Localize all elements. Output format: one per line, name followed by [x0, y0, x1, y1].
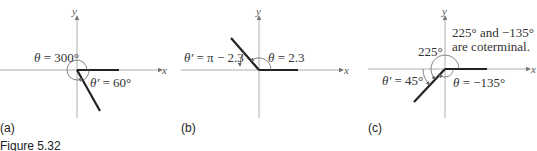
reference-arc [423, 69, 429, 85]
reference-angle-label: θ′ = 45° [382, 73, 423, 88]
theta-label: θ = 2.3 [268, 50, 304, 65]
y-axis-label: y [255, 5, 261, 17]
panel-label-c: (c) [368, 121, 382, 135]
reference-arc [83, 70, 89, 80]
figure-canvas: x y θ = 300° θ′ = 60° (a) Figure 5.32 x … [0, 0, 537, 151]
theta-label: θ = 300° [34, 50, 79, 65]
x-axis-label: x [530, 63, 536, 75]
panel-b: x y θ = 2.3 θ′ = π − 2.3 (b) [181, 5, 349, 135]
figure-caption: Figure 5.32 [0, 139, 61, 151]
panel-a: x y θ = 300° θ′ = 60° (a) Figure 5.32 [0, 5, 167, 151]
reference-angle-label: θ′ = π − 2.3 [184, 50, 244, 65]
theta-label: θ = −135° [453, 75, 505, 90]
panel-label-a: (a) [0, 121, 15, 135]
panel-c: x y 225° 225° and −135° are coterminal. … [368, 5, 536, 135]
reference-angle-label: θ′ = 60° [90, 75, 131, 90]
coterminal-note-line2: are coterminal. [452, 39, 530, 54]
angle-225-label: 225° [418, 44, 443, 59]
panel-label-b: (b) [181, 121, 196, 135]
y-axis-label: y [441, 5, 447, 17]
x-axis-label: x [343, 64, 349, 76]
x-axis-label: x [161, 64, 167, 76]
y-axis-label: y [71, 5, 77, 17]
coterminal-note-line1: 225° and −135° [452, 25, 534, 40]
